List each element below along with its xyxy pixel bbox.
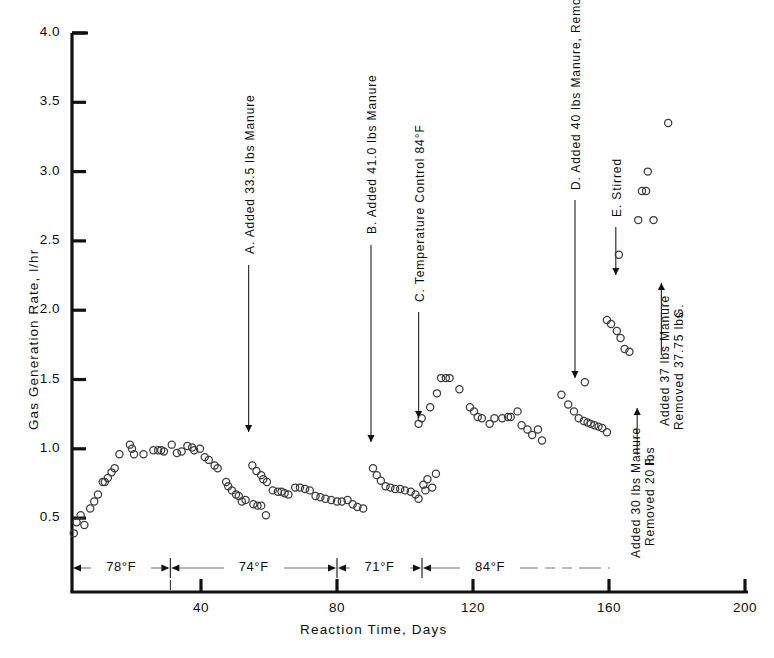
data-point — [306, 487, 313, 494]
data-point — [184, 442, 191, 449]
annotation-d-label: D. Added 40 lbs Manure, Removed 30 lbs — [569, 0, 583, 190]
data-point — [296, 484, 303, 491]
temperature-band-b4: 84°F — [460, 559, 520, 574]
data-point — [262, 512, 269, 519]
data-point — [665, 119, 672, 126]
data-point — [73, 519, 80, 526]
annotation-e-label: E. Stirred — [610, 158, 624, 217]
x-tick-label-160: 160 — [579, 600, 639, 615]
data-point — [116, 451, 123, 458]
annotation-g-line1: Added 37 lbs Manure — [658, 295, 672, 426]
data-point — [534, 426, 541, 433]
data-point — [87, 505, 94, 512]
band-arrow — [328, 564, 336, 571]
band-arrow — [171, 564, 179, 571]
data-point — [607, 320, 614, 327]
data-point — [456, 386, 463, 393]
x-tick-label-120: 120 — [443, 600, 503, 615]
data-point — [369, 465, 376, 472]
annotation-f-arrowhead — [634, 408, 641, 415]
annotation-b-arrowhead — [367, 435, 374, 442]
data-point — [269, 487, 276, 494]
data-point — [173, 449, 180, 456]
data-point — [558, 391, 565, 398]
data-point — [433, 390, 440, 397]
temperature-band-b3: 71°F — [350, 559, 410, 574]
data-point — [317, 494, 324, 501]
data-point — [491, 415, 498, 422]
x-tick-label-80: 80 — [307, 600, 367, 615]
band-arrow — [423, 564, 431, 571]
band-arrow — [73, 564, 81, 571]
data-point — [478, 415, 485, 422]
data-point — [140, 451, 147, 458]
data-point — [570, 408, 577, 415]
data-point — [613, 327, 620, 334]
annotation-f-line2: Removed 20 lbs — [643, 447, 657, 546]
annotation-b-label: B. Added 41.0 lbs Manure — [365, 74, 379, 234]
temperature-band-b2: 74°F — [224, 559, 284, 574]
data-point — [514, 408, 521, 415]
data-point — [312, 492, 319, 499]
data-point — [581, 379, 588, 386]
data-point — [253, 467, 260, 474]
annotation-g-line2: Removed 37.75 lbs — [672, 311, 686, 430]
annotation-a-arrowhead — [245, 425, 252, 432]
data-point — [466, 404, 473, 411]
y-tick-label-4.0: 4.0 — [18, 24, 60, 39]
data-point — [178, 448, 185, 455]
data-point — [565, 401, 572, 408]
data-point — [603, 429, 610, 436]
annotation-f-line1: Added 30 lbs Manure — [629, 427, 643, 558]
data-point — [301, 485, 308, 492]
y-tick-label-3.5: 3.5 — [18, 93, 60, 108]
temperature-band-b1: 78°F — [91, 559, 151, 574]
x-axis-title: Reaction Time, Days — [300, 622, 447, 637]
annotation-c-label: C. Temperature Control 84°F — [413, 124, 427, 302]
x-tick-label-40: 40 — [171, 600, 231, 615]
data-point — [538, 437, 545, 444]
data-point — [529, 431, 536, 438]
data-point — [81, 521, 88, 528]
data-point — [429, 484, 436, 491]
data-point — [94, 491, 101, 498]
figure-gas-generation-rate: 0.51.01.52.02.53.03.54.0408012016020078°… — [0, 0, 774, 658]
data-point — [424, 476, 431, 483]
band-arrow — [338, 564, 346, 571]
data-point — [387, 484, 394, 491]
data-point — [644, 168, 651, 175]
y-tick-label-0.5: 0.5 — [18, 509, 60, 524]
data-point — [91, 498, 98, 505]
data-point — [168, 441, 175, 448]
data-point — [635, 217, 642, 224]
annotation-d-arrowhead — [571, 371, 578, 378]
band-arrow — [413, 564, 421, 571]
y-axis-title: Gas Generation Rate, l/hr — [26, 249, 41, 430]
data-point — [382, 483, 389, 490]
data-point — [617, 334, 624, 341]
data-point — [650, 217, 657, 224]
band-arrow — [161, 564, 169, 571]
y-tick-label-2.5: 2.5 — [18, 232, 60, 247]
annotation-g-arrowhead — [658, 283, 665, 290]
data-point — [427, 404, 434, 411]
annotation-e-arrowhead — [612, 268, 619, 275]
data-point — [397, 485, 404, 492]
annotation-a-label: A. Added 33.5 lbs Manure — [243, 94, 257, 254]
x-tick-label-200: 200 — [715, 600, 774, 615]
y-tick-label-1.0: 1.0 — [18, 440, 60, 455]
data-point — [432, 470, 439, 477]
data-point — [603, 316, 610, 323]
y-tick-label-3.0: 3.0 — [18, 163, 60, 178]
